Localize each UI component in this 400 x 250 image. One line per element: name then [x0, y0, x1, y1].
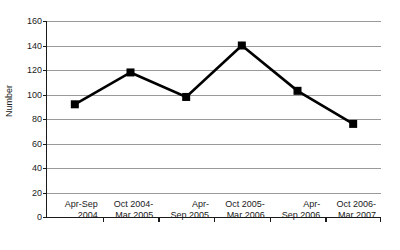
y-axis-tick-label: 100 [27, 90, 42, 100]
data-point-marker [182, 93, 190, 101]
x-axis-tick-mark [380, 217, 381, 222]
y-axis-tick-label: 40 [32, 163, 42, 173]
data-series [47, 21, 381, 217]
data-point-marker [294, 87, 302, 95]
x-axis-tick-label: Apr-Sep2004 [46, 199, 98, 221]
data-point-marker [349, 120, 357, 128]
x-axis-tick-label: Apr-Sep 2005 [157, 199, 209, 221]
x-axis-tick-label: Oct 2004-Mar 2005 [102, 199, 154, 221]
y-axis-tick-label: 140 [27, 41, 42, 51]
y-axis-tick-label: 0 [37, 212, 42, 222]
x-axis-tick-label: Apr-Sep 2006 [269, 199, 321, 221]
series-line [75, 46, 353, 124]
y-axis-tick-label: 80 [32, 114, 42, 124]
y-axis-tick-label: 60 [32, 139, 42, 149]
data-point-marker [127, 68, 135, 76]
x-axis-tick-label: Oct 2005-Mar 2006 [213, 199, 265, 221]
x-axis-tick-label: Oct 2006-Mar 2007 [324, 199, 376, 221]
y-axis-tick-label: 20 [32, 188, 42, 198]
data-point-marker [238, 42, 246, 50]
y-axis-tick-label: 160 [27, 16, 42, 26]
y-axis-tick-label: 120 [27, 65, 42, 75]
y-axis-title: Number [4, 71, 14, 131]
data-point-marker [71, 100, 79, 108]
chart-title [8, 0, 338, 4]
series-markers [71, 42, 357, 128]
line-chart: Number 020406080100120140160 Apr-Sep2004… [0, 0, 400, 250]
plot-area: 020406080100120140160 [46, 21, 381, 218]
